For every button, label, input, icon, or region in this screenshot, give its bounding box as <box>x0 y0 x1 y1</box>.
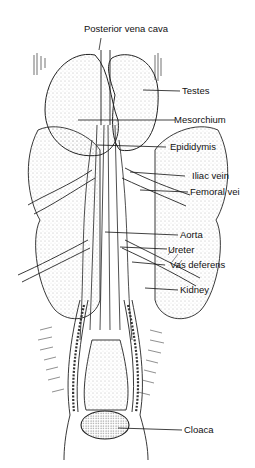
testes <box>45 54 158 155</box>
label-vas-deferens: Vas deferens <box>170 260 225 270</box>
label-ureter: Ureter <box>168 245 194 255</box>
label-epididymis: Epididymis <box>170 142 216 152</box>
label-mesorchium: Mesorchium <box>174 115 226 125</box>
label-femoral-vein: Femoral vei <box>190 187 240 197</box>
label-posterior-vena-cava: Posterior vena cava <box>84 24 168 34</box>
cloaca <box>81 411 129 439</box>
label-aorta: Aorta <box>180 230 203 240</box>
label-testes: Testes <box>182 86 209 96</box>
label-cloaca: Cloaca <box>184 425 214 435</box>
bladder <box>84 340 128 410</box>
urogenital-drawing <box>0 0 255 468</box>
label-iliac-vein: Iliac vein <box>192 171 229 181</box>
label-kidney: Kidney <box>180 285 209 295</box>
